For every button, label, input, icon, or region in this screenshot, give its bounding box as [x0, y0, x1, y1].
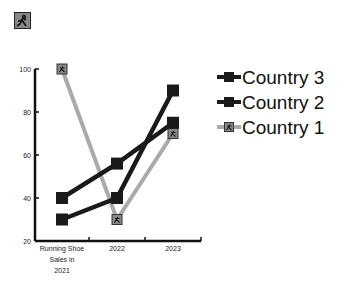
series-country-3	[56, 117, 179, 204]
y-tick-label: 100	[19, 66, 31, 73]
y-tick-label: 80	[23, 109, 31, 116]
data-point	[111, 158, 123, 170]
data-point	[167, 85, 179, 97]
y-tick-label: 20	[23, 238, 31, 245]
x-tick-label: 2023	[165, 245, 181, 252]
x-tick-label: Running Shoe	[40, 245, 84, 253]
data-point	[56, 214, 68, 226]
legend-label: Country 3	[242, 67, 324, 88]
line-chart: 20406080100Running ShoeSales in202120222…	[0, 0, 344, 282]
y-tick-label: 40	[23, 195, 31, 202]
y-tick-label: 60	[23, 152, 31, 159]
data-point	[111, 192, 123, 204]
data-point	[56, 192, 68, 204]
data-point	[167, 117, 179, 129]
legend-item: Country 1	[217, 117, 324, 138]
legend-label: Country 2	[242, 92, 324, 113]
legend: Country 3Country 2Country 1	[217, 67, 324, 138]
x-tick-label: 2021	[54, 267, 70, 274]
legend-item: Country 3	[217, 67, 324, 88]
legend-item: Country 2	[217, 92, 324, 113]
x-tick-label: Sales in	[50, 256, 75, 263]
x-tick-label: 2022	[109, 245, 125, 252]
series-lines	[56, 64, 179, 226]
legend-label: Country 1	[242, 117, 324, 138]
